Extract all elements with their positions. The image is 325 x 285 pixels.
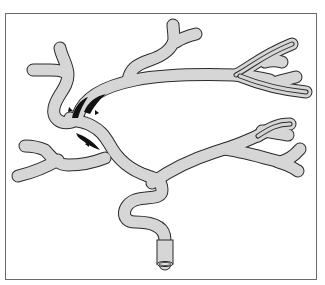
arrowhead-upper-right-icon xyxy=(95,110,99,115)
arrowhead-upper-left-icon xyxy=(68,107,73,112)
vessel-cut-end xyxy=(157,240,173,267)
artery-diagram xyxy=(0,0,325,285)
